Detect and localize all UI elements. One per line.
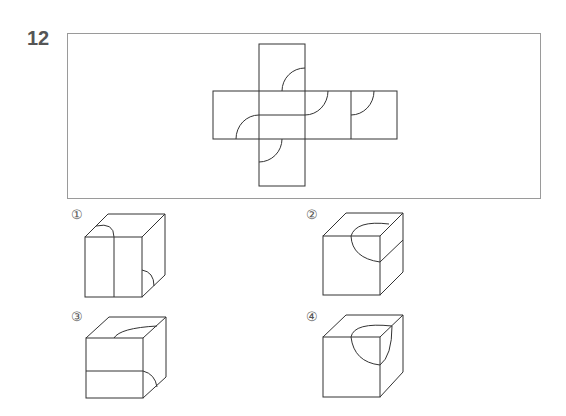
arc-bottom-face xyxy=(259,139,282,162)
option-4-label[interactable]: ④ xyxy=(306,309,318,324)
cube-net xyxy=(213,44,397,186)
option-1-label[interactable]: ① xyxy=(71,207,83,222)
option-3-cube[interactable] xyxy=(86,317,166,398)
option-1-cube[interactable] xyxy=(85,214,165,297)
option-2-label[interactable]: ② xyxy=(306,207,318,222)
arc-left-face xyxy=(236,115,259,139)
option-4-cube[interactable] xyxy=(323,315,403,397)
arc-right-face xyxy=(305,91,328,115)
arc-top-face xyxy=(282,68,305,91)
puzzle-drawing xyxy=(0,0,566,416)
option-3-label[interactable]: ③ xyxy=(71,309,83,324)
option-2-cube[interactable] xyxy=(323,213,403,295)
arc-far-right-face xyxy=(351,91,374,115)
